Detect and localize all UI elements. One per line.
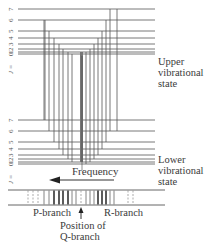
- r-branch-label: R-branch: [104, 207, 143, 218]
- lower-state-label-line-1: Lower: [158, 154, 204, 165]
- svg-text:J =: J =: [7, 174, 15, 184]
- upper-state-label: Upper vibrational state: [158, 56, 204, 89]
- svg-text:0: 0: [7, 162, 15, 166]
- svg-text:6: 6: [7, 18, 15, 22]
- upper-state-label-line-1: Upper: [158, 56, 204, 67]
- q-branch-position-arrow-icon: [79, 207, 84, 219]
- svg-text:3: 3: [7, 153, 15, 157]
- q-branch-label-line-2: Q-branch: [60, 231, 106, 242]
- upper-state-label-line-2: vibrational: [158, 67, 204, 78]
- lower-state-label: Lower vibrational state: [158, 154, 204, 187]
- svg-text:3: 3: [7, 42, 15, 46]
- transition-lines: [44, 9, 117, 170]
- upper-state-label-line-3: state: [158, 78, 204, 89]
- svg-text:0: 0: [7, 52, 15, 56]
- lower-state-label-line-3: state: [158, 176, 204, 187]
- j-axis-labels: 76543210J =76543210J =: [7, 7, 15, 184]
- upper-state-levels: [18, 9, 155, 54]
- svg-text:4: 4: [7, 147, 15, 151]
- svg-text:4: 4: [7, 36, 15, 40]
- svg-text:7: 7: [7, 7, 15, 11]
- q-branch-position-label: Position of Q-branch: [60, 220, 106, 242]
- frequency-arrow-icon: [49, 177, 114, 184]
- svg-text:6: 6: [7, 129, 15, 133]
- svg-text:5: 5: [7, 29, 15, 33]
- q-branch-label-line-1: Position of: [60, 220, 106, 231]
- svg-text:J =: J =: [7, 64, 15, 74]
- lower-state-label-line-2: vibrational: [158, 165, 204, 176]
- p-branch-label: P-branch: [33, 207, 71, 218]
- svg-text:2: 2: [7, 157, 15, 161]
- svg-text:5: 5: [7, 140, 15, 144]
- frequency-label: Frequency: [72, 166, 118, 177]
- lower-state-levels: [18, 120, 155, 164]
- spectrum-band: [8, 190, 165, 205]
- svg-text:7: 7: [7, 118, 15, 122]
- svg-text:2: 2: [7, 47, 15, 51]
